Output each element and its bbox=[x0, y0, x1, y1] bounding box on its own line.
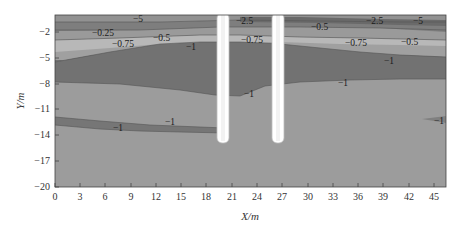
svg-text:−0.5: −0.5 bbox=[153, 33, 170, 43]
svg-text:−1: −1 bbox=[113, 123, 123, 133]
svg-text:−0.25: −0.25 bbox=[92, 28, 114, 38]
x-tick: 42 bbox=[404, 191, 414, 202]
y-tick: −11 bbox=[35, 103, 50, 114]
x-tick: 0 bbox=[53, 191, 58, 202]
x-tick: 27 bbox=[277, 191, 287, 202]
x-tick: 30 bbox=[303, 191, 313, 202]
svg-text:−0.75: −0.75 bbox=[112, 39, 134, 49]
x-tick: 39 bbox=[378, 191, 388, 202]
svg-text:−0.5: −0.5 bbox=[401, 37, 418, 47]
svg-text:−2.5: −2.5 bbox=[366, 16, 383, 26]
x-tick: 33 bbox=[328, 191, 338, 202]
contour-chart: −5 −0.25 −0.5 −0.75 −1 −2.5 −0.75 −1 −0.… bbox=[0, 0, 468, 237]
x-tick: 9 bbox=[129, 191, 134, 202]
svg-text:−0.75: −0.75 bbox=[241, 35, 263, 45]
y-tick: −20 bbox=[34, 181, 50, 192]
pile-right bbox=[272, 13, 284, 143]
svg-text:−1: −1 bbox=[434, 116, 444, 126]
svg-text:−1: −1 bbox=[384, 56, 394, 66]
x-axis-title: X/m bbox=[240, 210, 259, 222]
y-axis: −2 −5 −8 −11 −14 −17 −20 Y/m bbox=[14, 26, 59, 192]
x-tick: 45 bbox=[429, 191, 439, 202]
x-tick: 12 bbox=[151, 191, 161, 202]
svg-text:−0.75: −0.75 bbox=[345, 38, 367, 48]
y-tick: −2 bbox=[39, 26, 50, 37]
svg-text:−1: −1 bbox=[186, 42, 196, 52]
svg-text:−1: −1 bbox=[338, 78, 348, 88]
x-axis: 0 3 6 9 12 15 18 21 24 27 30 33 36 39 42… bbox=[53, 183, 440, 222]
x-tick: 36 bbox=[353, 191, 363, 202]
svg-text:−1: −1 bbox=[165, 117, 175, 127]
x-tick: 21 bbox=[227, 191, 237, 202]
y-axis-title: Y/m bbox=[14, 92, 26, 109]
plot-area: −5 −0.25 −0.5 −0.75 −1 −2.5 −0.75 −1 −0.… bbox=[55, 13, 446, 187]
x-tick: 6 bbox=[103, 191, 108, 202]
svg-text:−5: −5 bbox=[133, 14, 143, 24]
y-tick: −17 bbox=[34, 155, 50, 166]
y-tick: −14 bbox=[34, 129, 50, 140]
svg-text:−0.5: −0.5 bbox=[311, 22, 328, 32]
x-tick: 24 bbox=[252, 191, 262, 202]
x-tick: 18 bbox=[201, 191, 211, 202]
x-tick: 15 bbox=[176, 191, 186, 202]
y-tick: −8 bbox=[39, 78, 50, 89]
svg-text:−1: −1 bbox=[244, 89, 254, 99]
x-tick: 3 bbox=[78, 191, 83, 202]
svg-text:−2.5: −2.5 bbox=[236, 16, 253, 26]
pile-left bbox=[217, 13, 229, 143]
y-tick: −5 bbox=[39, 52, 50, 63]
svg-text:−5: −5 bbox=[413, 16, 423, 26]
